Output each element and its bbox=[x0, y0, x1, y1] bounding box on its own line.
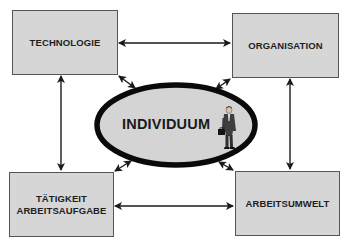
technologie-box: TECHNOLOGIE bbox=[12, 10, 118, 75]
arbeitsumwelt-label: ARBEITSUMWELT bbox=[246, 198, 330, 210]
arrow-individuum-arbeitsumwelt bbox=[219, 162, 233, 170]
taetigkeit-box: TÄTIGKEIT ARBEITSAUFGABE bbox=[9, 172, 114, 237]
organisation-label: ORGANISATION bbox=[248, 40, 322, 52]
organisation-box: ORGANISATION bbox=[232, 13, 339, 78]
arrow-individuum-organisation bbox=[216, 79, 230, 89]
technologie-label: TECHNOLOGIE bbox=[30, 37, 101, 49]
arbeitsaufgabe-label: ARBEITSAUFGABE bbox=[16, 205, 106, 217]
arbeitsumwelt-box: ARBEITSUMWELT bbox=[235, 171, 340, 236]
diagram-canvas: TECHNOLOGIE ORGANISATION TÄTIGKEIT ARBEI… bbox=[0, 0, 349, 248]
arrow-individuum-technologie bbox=[119, 76, 135, 88]
individuum-label: INDIVIDUUM bbox=[122, 116, 210, 132]
arrow-individuum-taetigkeit bbox=[115, 161, 131, 171]
taetigkeit-label: TÄTIGKEIT bbox=[36, 193, 87, 205]
